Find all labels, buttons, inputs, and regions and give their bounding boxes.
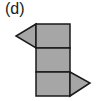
right-triangle: [70, 72, 90, 96]
left-triangle: [16, 24, 36, 48]
bottom-square: [36, 72, 70, 96]
prism-net-diagram: [0, 0, 99, 101]
top-square: [36, 24, 70, 48]
middle-square: [36, 48, 70, 72]
